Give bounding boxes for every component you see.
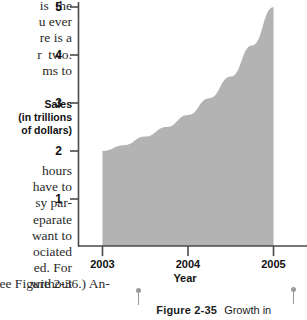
- margin-pin-icon-right: [291, 287, 296, 304]
- y-axis-tick-marks: [70, 7, 79, 199]
- x-tick-label-2004: 2004: [162, 258, 214, 270]
- sales-growth-area-chart: 12345 200320042005: [0, 0, 307, 270]
- figure-caption-number: Figure 2-35: [156, 304, 217, 316]
- figure-caption-text: Growth in: [224, 304, 271, 316]
- growth-area-shape: [103, 7, 274, 246]
- y-tick-label-1: 1: [42, 192, 62, 206]
- x-tick-label-2003: 2003: [77, 258, 129, 270]
- y-tick-label-4: 4: [42, 48, 62, 62]
- y-tick-label-3: 3: [42, 96, 62, 110]
- figure-caption: Figure 2-35Growth in: [144, 292, 271, 320]
- margin-pin-icon: [136, 288, 141, 305]
- body-text-bottom-line: See Figure 2-36.) An-: [0, 276, 96, 292]
- chart-svg: [0, 0, 307, 270]
- x-axis-tick-marks: [103, 246, 274, 256]
- y-tick-label-5: 5: [42, 0, 62, 14]
- x-tick-label-2005: 2005: [248, 258, 300, 270]
- x-axis-title: Year: [150, 272, 220, 284]
- y-tick-label-2: 2: [42, 144, 62, 158]
